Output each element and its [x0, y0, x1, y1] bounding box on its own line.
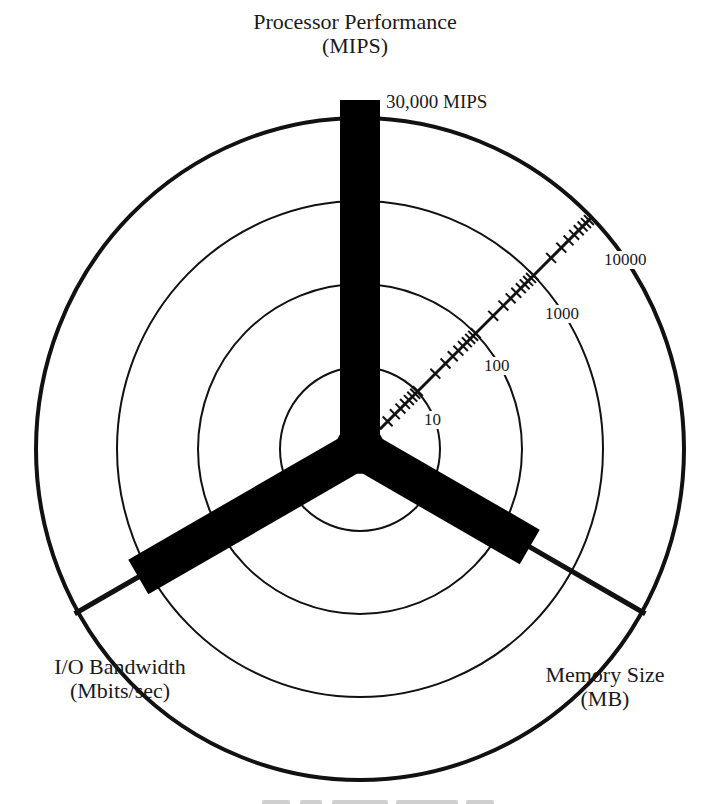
ring-label-10000: 10000 [602, 251, 649, 269]
ring-label-10: 10 [422, 411, 443, 429]
figure-caption-cropped [0, 790, 710, 804]
hub [335, 424, 385, 474]
processor-axis-title-line1: Processor Performance [205, 10, 505, 34]
io-axis-unit: (Mbits/sec) [20, 679, 220, 703]
memory-axis-title-line1: Memory Size [520, 663, 690, 687]
processor-bar [340, 100, 380, 449]
processor-axis-unit: (MIPS) [205, 34, 505, 58]
io-axis-title-line1: I/O Bandwidth [20, 655, 220, 679]
processor-max-label: 30,000 MIPS [386, 90, 487, 114]
memory-axis-title: Memory Size (MB) [520, 663, 690, 711]
log-axis-line [380, 217, 592, 429]
memory-axis-unit: (MB) [520, 687, 690, 711]
value-bars [128, 100, 539, 594]
processor-axis-title: Processor Performance (MIPS) [205, 10, 505, 58]
ring-label-100: 100 [482, 357, 512, 375]
ring-label-1000: 1000 [543, 305, 581, 323]
io-axis-title: I/O Bandwidth (Mbits/sec) [20, 655, 220, 703]
